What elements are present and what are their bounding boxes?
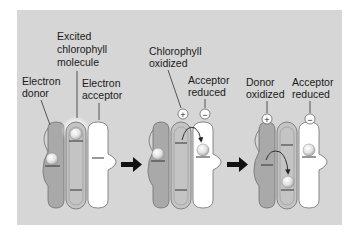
transferred-electron-ball bbox=[197, 144, 209, 156]
transferred-electron-ball bbox=[282, 176, 294, 188]
electron-ball bbox=[152, 148, 164, 160]
svg-text:+: + bbox=[180, 110, 185, 120]
photosynthesis-electron-transfer-diagram: Excitedchlorophyllmolecule Electrondonor… bbox=[0, 0, 360, 237]
label-electron-acceptor: Electronacceptor bbox=[82, 77, 123, 101]
svg-text:+: + bbox=[264, 115, 269, 125]
svg-text:−: − bbox=[202, 110, 207, 120]
svg-text:−: − bbox=[307, 115, 312, 125]
label-acceptor-reduced-3: Acceptorreduced bbox=[292, 76, 334, 100]
label-acceptor-reduced: Acceptorreduced bbox=[188, 74, 230, 98]
electron-ball bbox=[46, 153, 58, 165]
excited-electron-ball bbox=[70, 128, 82, 140]
electron-ball bbox=[303, 144, 315, 156]
